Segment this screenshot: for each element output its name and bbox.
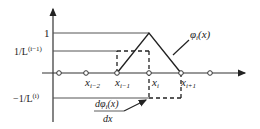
- label-neg-inv: −1/L(i): [13, 92, 40, 104]
- basis-function-diagram: 1 1/L(i−1) −1/L(i) xi−2 xi−1 xi xi+1 φi(…: [0, 0, 260, 129]
- label-inv-prev: 1/L(i−1): [14, 45, 43, 57]
- label-one: 1: [44, 27, 50, 39]
- label-dphi-den: dx: [103, 113, 113, 124]
- dphi-leader: [124, 100, 146, 111]
- label-x-i-1: xi−1: [114, 76, 130, 90]
- label-x-i+1: xi+1: [180, 76, 196, 90]
- label-x-i: xi: [151, 76, 159, 90]
- label-phi: φi(x): [190, 28, 211, 42]
- label-x-i-2: xi−2: [84, 76, 101, 90]
- label-dphi-num: dφi(x): [95, 98, 119, 111]
- phi-leader: [173, 40, 189, 55]
